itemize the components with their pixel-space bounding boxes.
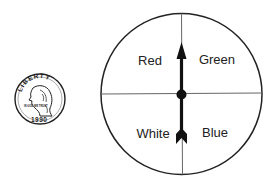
spinner-hub	[177, 90, 187, 100]
section-label-green: Green	[199, 52, 235, 67]
quarter-coin: LIBERTY IN GOD WE TRUST 1990	[15, 72, 65, 124]
section-label-blue: Blue	[202, 125, 228, 140]
section-label-white: White	[136, 126, 169, 141]
coin-motto: IN GOD WE TRUST	[24, 104, 48, 108]
figure: LIBERTY IN GOD WE TRUST 1990 Red Green W…	[0, 0, 274, 187]
coin-year: 1990	[31, 116, 47, 123]
section-label-red: Red	[138, 53, 162, 68]
spinner-wheel: Red Green White Blue	[101, 14, 262, 175]
